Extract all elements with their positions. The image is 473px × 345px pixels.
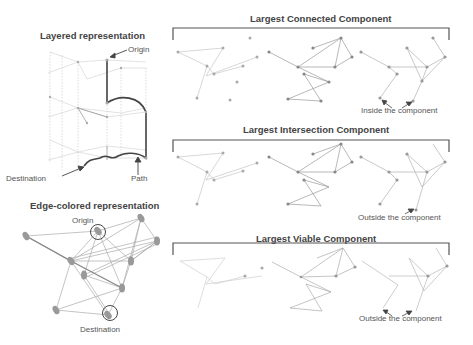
component-panels [0, 0, 473, 345]
annotation-viable: Outside the component [359, 314, 442, 323]
bracket-connected [173, 28, 449, 40]
annotation-intersection: Outside the component [358, 213, 441, 222]
annotation-connected: Inside the component [361, 106, 438, 115]
bracket-intersection [173, 140, 449, 152]
bracket-viable [173, 243, 449, 255]
